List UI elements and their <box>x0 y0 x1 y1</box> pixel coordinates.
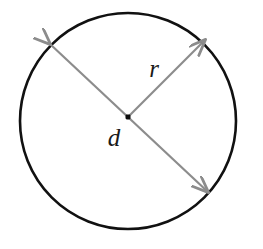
circle-diagram: d r <box>0 0 263 249</box>
radius-arrow <box>128 40 205 117</box>
radius-label: r <box>149 55 159 82</box>
circle-diagram-canvas: d r <box>0 0 263 249</box>
center-point-dot <box>126 115 131 120</box>
diameter-label: d <box>108 124 121 151</box>
